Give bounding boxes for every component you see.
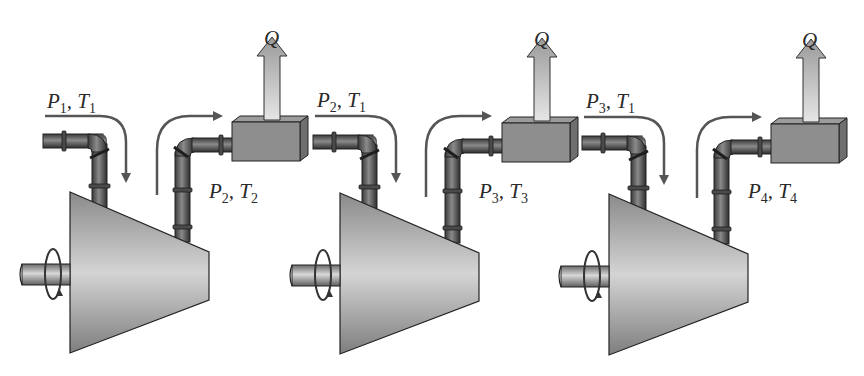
inlet-state-label-2: P2, T1 — [316, 88, 366, 115]
compression-stage-1 — [20, 37, 308, 353]
heat-label-1: Q — [264, 26, 279, 50]
outlet-state-label-1: P2, T2 — [208, 179, 258, 206]
inlet-state-label-1: P1, T1 — [46, 89, 96, 116]
compression-stage-2 — [290, 38, 578, 354]
outlet-state-label-3: P4, T4 — [747, 179, 797, 206]
labels: Q Q Q P1, T1 P2, T2 P2, T1 P3, T3 P3, T1… — [46, 26, 817, 206]
multistage-compressor-diagram: Q Q Q P1, T1 P2, T2 P2, T1 P3, T3 P3, T1… — [0, 0, 864, 376]
heat-label-2: Q — [534, 27, 549, 51]
flow-arrows — [45, 116, 757, 198]
heat-label-3: Q — [802, 28, 817, 52]
compression-stage-3 — [559, 39, 847, 355]
inlet-state-label-3: P3, T1 — [585, 89, 635, 116]
outlet-state-label-2: P3, T3 — [478, 179, 528, 206]
